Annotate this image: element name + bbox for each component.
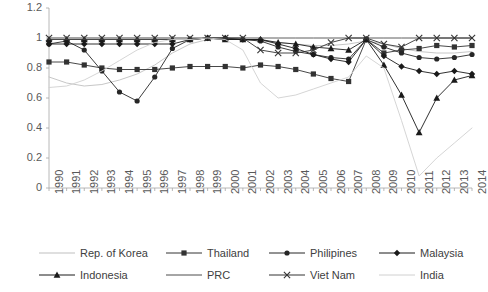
legend-label: Philipines [310,247,357,259]
x-tick-label: 2002 [265,170,276,194]
series-india [49,38,472,176]
y-tick-label: 1.2 [8,2,42,13]
data-point-marker [284,250,289,255]
data-point-marker [135,67,140,72]
y-tick-label: 0.4 [8,122,42,133]
legend-item-rep-of-korea[interactable]: Rep. of Korea [38,244,148,262]
data-point-marker [417,55,422,60]
y-tick-label: 0.8 [8,62,42,73]
data-point-marker [434,43,439,48]
x-tick-label: 2007 [353,170,364,194]
legend-item-india[interactable]: India [378,266,444,284]
data-point-marker [398,63,404,69]
legend-label: Malaysia [420,247,463,259]
y-tick-label: 0.6 [8,92,42,103]
x-tick-label: 2008 [371,170,382,194]
data-point-marker [240,65,245,70]
data-point-marker [276,64,281,69]
legend-label: Indonesia [80,269,128,281]
data-point-marker [346,79,351,84]
legend-item-thailand[interactable]: Thailand [165,244,249,262]
data-point-marker [416,129,423,135]
chart-legend: Rep. of KoreaThailandPhilipinesMalaysiaI… [0,240,481,292]
data-point-marker [434,56,439,61]
data-point-marker [82,47,87,52]
x-tick-label: 2005 [318,170,329,194]
data-point-marker [434,71,440,77]
legend-marker-icon [165,247,203,259]
data-point-marker [152,67,157,72]
legend-item-prc[interactable]: PRC [165,266,230,284]
data-point-marker [223,64,228,69]
data-point-marker [452,44,457,49]
data-point-marker [258,62,263,67]
legend-label: Thailand [207,247,249,259]
data-point-marker [417,46,422,51]
data-point-marker [452,55,457,60]
data-point-marker [170,65,175,70]
y-tick-label: 1 [8,32,42,43]
legend-marker-icon [38,247,76,259]
data-point-marker [46,59,51,64]
plot-area [0,0,481,240]
legend-marker-icon [268,269,306,281]
data-point-marker [398,92,405,98]
legend-label: PRC [207,269,230,281]
x-tick-label: 2014 [477,170,488,194]
data-point-marker [399,50,404,55]
legend-item-malaysia[interactable]: Malaysia [378,244,463,262]
data-point-marker [135,98,140,103]
data-point-marker [469,43,474,48]
data-point-marker [152,74,157,79]
data-point-marker [205,64,210,69]
x-tick-label: 2009 [388,170,399,194]
x-tick-label: 1990 [54,170,65,194]
x-tick-label: 2011 [424,170,435,194]
data-point-marker [328,76,333,81]
legend-item-viet-nam[interactable]: Viet Nam [268,266,355,284]
series-philipines [46,35,474,103]
data-point-marker [82,62,87,67]
data-point-marker [469,52,474,57]
x-tick-label: 2010 [406,170,417,194]
x-tick-label: 1993 [106,170,117,194]
x-tick-label: 2006 [336,170,347,194]
legend-label: India [420,269,444,281]
data-point-marker [117,67,122,72]
legend-marker-icon [165,269,203,281]
x-tick-label: 1999 [212,170,223,194]
legend-item-indonesia[interactable]: Indonesia [38,266,128,284]
axis-lines [46,8,472,191]
legend-label: Rep. of Korea [80,247,148,259]
chart-svg [0,0,481,240]
series-rep-of-korea [49,38,472,86]
data-point-marker [64,59,69,64]
y-tick-label: 0 [8,182,42,193]
x-tick-label: 1998 [195,170,206,194]
data-point-marker [293,67,298,72]
x-tick-label: 1992 [89,170,100,194]
x-tick-label: 2004 [300,170,311,194]
data-point-marker [311,71,316,76]
data-point-marker [117,89,122,94]
x-tick-label: 1995 [142,170,153,194]
x-tick-label: 2012 [441,170,452,194]
legend-marker-icon [268,247,306,259]
legend-item-philipines[interactable]: Philipines [268,244,357,262]
x-tick-label: 1994 [124,170,135,194]
x-tick-label: 1996 [159,170,170,194]
y-tick-label: 0.2 [8,152,42,163]
x-tick-label: 1991 [71,170,82,194]
data-point-marker [416,68,422,74]
data-point-marker [187,64,192,69]
data-point-marker [469,72,476,78]
data-point-marker [451,68,457,74]
x-tick-label: 2001 [247,170,258,194]
data-point-marker [394,250,400,256]
legend-marker-icon [38,269,76,281]
legend-marker-icon [378,247,416,259]
x-tick-label: 2013 [459,170,470,194]
legend-marker-icon [378,269,416,281]
data-point-marker [328,39,334,45]
